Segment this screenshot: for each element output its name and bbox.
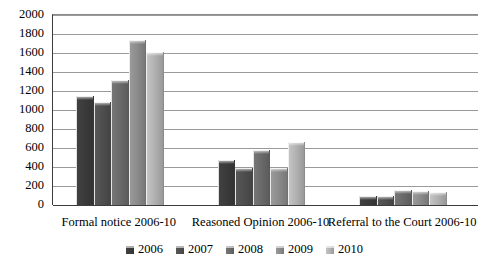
y-axis-tick-label: 800	[25, 122, 44, 134]
y-axis-tick-label: 200	[25, 179, 44, 191]
bar-group	[218, 15, 306, 205]
bar	[76, 96, 94, 205]
y-axis-tick-labels: 2000180016001400120010008006004002000	[0, 0, 48, 215]
bar-highlight	[130, 40, 146, 44]
legend-swatch-icon	[276, 246, 284, 254]
chart-legend: 20062007200820092010	[0, 243, 489, 256]
x-axis-category-labels: Formal notice 2006-10Reasoned Opinion 20…	[52, 213, 477, 235]
legend-label: 2009	[288, 243, 313, 256]
bar-highlight	[378, 196, 394, 200]
bar	[218, 160, 236, 205]
bar	[288, 142, 306, 205]
bar	[111, 80, 129, 205]
y-axis-tick-label: 400	[25, 160, 44, 172]
bar	[94, 102, 112, 205]
legend-swatch-icon	[226, 246, 234, 254]
bar-group	[76, 15, 164, 205]
bar-highlight	[413, 191, 429, 195]
bar-highlight	[360, 196, 376, 200]
axis-baseline	[53, 205, 478, 206]
legend-swatch-icon	[126, 246, 134, 254]
y-axis-tick-label: 1400	[19, 65, 44, 77]
bar	[429, 192, 447, 205]
bar-highlight	[430, 192, 446, 196]
bar-highlight	[112, 80, 128, 84]
legend-item: 2006	[126, 243, 163, 256]
bar-highlight	[95, 102, 111, 106]
bar-highlight	[77, 96, 93, 100]
x-axis-category-label: Reasoned Opinion 2006-10	[192, 213, 329, 231]
bars-layer	[53, 15, 478, 205]
legend-item: 2007	[176, 243, 213, 256]
bar	[377, 196, 395, 205]
bar	[359, 196, 377, 205]
bar	[129, 40, 147, 205]
y-axis-tick-label: 600	[25, 141, 44, 153]
bar-highlight	[219, 160, 235, 164]
bar-highlight	[395, 190, 411, 194]
legend-label: 2006	[138, 243, 163, 256]
bar	[253, 150, 271, 205]
bar	[412, 191, 430, 205]
legend-item: 2008	[226, 243, 263, 256]
y-axis-tick-label: 1800	[19, 27, 44, 39]
legend-swatch-icon	[176, 246, 184, 254]
bar	[394, 190, 412, 205]
bar-highlight	[254, 150, 270, 154]
x-axis-category-label: Formal notice 2006-10	[62, 213, 177, 231]
plot-area	[52, 14, 478, 205]
legend-label: 2010	[338, 243, 363, 256]
bar-group	[359, 15, 447, 205]
y-axis-tick-label: 1200	[19, 84, 44, 96]
legend-item: 2010	[326, 243, 363, 256]
legend-label: 2008	[238, 243, 263, 256]
y-axis-tick-label: 0	[38, 198, 44, 210]
bar-highlight	[289, 142, 305, 146]
bar	[235, 168, 253, 205]
bar-chart: 2000180016001400120010008006004002000 Fo…	[0, 0, 489, 267]
bar	[146, 52, 164, 205]
y-axis-tick-label: 2000	[19, 8, 44, 20]
bar-highlight	[271, 168, 287, 172]
x-axis-category-label: Referral to the Court 2006-10	[328, 213, 477, 231]
legend-swatch-icon	[326, 246, 334, 254]
legend-item: 2009	[276, 243, 313, 256]
legend-label: 2007	[188, 243, 213, 256]
bar	[270, 168, 288, 205]
bar-highlight	[236, 168, 252, 172]
y-axis-tick-label: 1600	[19, 46, 44, 58]
bar-highlight	[147, 52, 163, 56]
y-axis-tick-label: 1000	[19, 103, 44, 115]
